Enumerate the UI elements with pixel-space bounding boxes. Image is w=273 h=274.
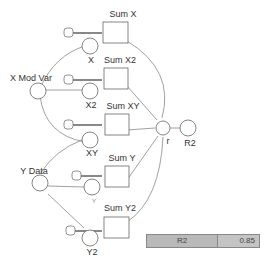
flow-label-y2: Y2 [86, 247, 97, 257]
flow-label-xy: XY [86, 148, 98, 158]
converter-label-r: r [167, 136, 170, 146]
model-diagram [0, 0, 273, 274]
stock-label-sum-y2: Sum Y2 [104, 203, 136, 213]
stock-label-sum-x2: Sum X2 [104, 55, 136, 65]
converter-label-r2: R2 [184, 138, 196, 148]
converter-label-y-data: Y Data [20, 166, 47, 176]
stock-label-sum-xy: Sum XY [106, 101, 139, 111]
converter-label-x-mod-var: X Mod Var [10, 73, 52, 83]
flow-label-x2: X2 [85, 100, 96, 110]
display-name: R2 [147, 235, 218, 247]
stock-label-sum-y: Sum Y [109, 153, 136, 163]
stock-label-sum-x: Sum X [109, 9, 136, 19]
flow-label-x: X [88, 55, 94, 65]
display-value: 0.85 [218, 235, 259, 247]
numeric-display-r2[interactable]: R2 0.85 [146, 234, 260, 248]
flow-label-y: Y [92, 198, 96, 204]
